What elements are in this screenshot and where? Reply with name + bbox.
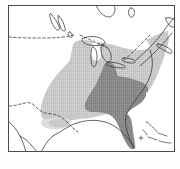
map-canvas — [0, 0, 180, 169]
range-patch-texas-core — [50, 119, 69, 127]
range-map-figure — [0, 0, 180, 169]
